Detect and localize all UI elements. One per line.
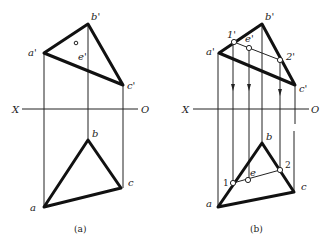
point-2: [277, 167, 282, 172]
point-1-prime: [231, 39, 236, 44]
arrow-down-icon: [247, 84, 251, 91]
label-b: b: [266, 131, 272, 142]
label-1-prime: 1': [227, 29, 236, 40]
caption-a: (a): [74, 224, 86, 234]
top-triangle: [218, 143, 294, 207]
projection-drawing: X O a' b' c' e' b c a (a) X O: [0, 0, 328, 249]
point-e: [245, 177, 250, 182]
figure-b: X O a' b' c' e' 1' 2' b c a e 1: [181, 11, 319, 234]
label-c-prime: c': [299, 83, 307, 94]
label-c-prime: c': [127, 80, 135, 91]
axis-label-x: X: [11, 104, 20, 115]
label-c: c: [301, 181, 307, 192]
label-e-prime: e': [245, 33, 254, 44]
axis-label-o: O: [311, 104, 319, 115]
arrow-down-icon: [278, 89, 282, 96]
arrow-down-icon: [231, 84, 235, 91]
label-e: e: [250, 167, 256, 178]
point-1: [230, 180, 235, 185]
axis-label-o: O: [141, 104, 149, 115]
figure-a: X O a' b' c' e' b c a (a): [11, 11, 149, 234]
label-a-prime: a': [206, 46, 215, 57]
label-1: 1: [223, 178, 229, 188]
label-2-prime: 2': [285, 51, 295, 62]
label-b-prime: b': [265, 11, 274, 22]
label-2: 2: [285, 160, 291, 170]
label-c: c: [128, 177, 134, 188]
label-b-prime: b': [91, 11, 100, 22]
label-a: a: [206, 198, 212, 209]
label-a: a: [30, 202, 36, 213]
label-b: b: [92, 128, 98, 139]
point-e-prime: [74, 41, 78, 45]
top-triangle: [44, 140, 121, 207]
label-e-prime: e': [78, 51, 87, 62]
axis-label-x: X: [181, 104, 190, 115]
caption-b: (b): [250, 224, 263, 234]
point-2-prime: [277, 57, 282, 62]
label-a-prime: a': [28, 47, 37, 58]
point-e-prime: [246, 45, 251, 50]
